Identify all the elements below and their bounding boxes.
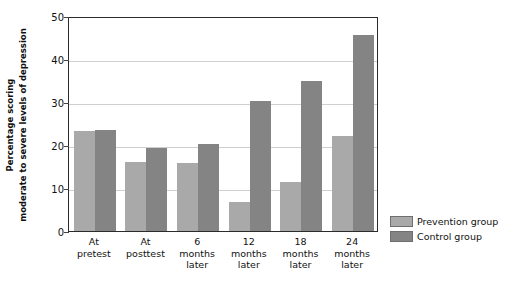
- x-axis-tick-label-line: months: [223, 248, 275, 260]
- x-axis-tick-label: 18monthslater: [275, 236, 327, 271]
- x-axis-tick-label-line: later: [171, 259, 223, 271]
- bar-prevention[interactable]: [280, 182, 301, 231]
- bar-group: [121, 18, 173, 231]
- bar-control[interactable]: [250, 101, 271, 231]
- y-axis-tick-label: 30: [40, 98, 64, 109]
- bar-prevention[interactable]: [229, 202, 250, 231]
- y-axis-tick-label: 40: [40, 55, 64, 66]
- x-axis-tick-label-line: 6: [171, 236, 223, 248]
- legend-item[interactable]: Control group: [390, 231, 512, 242]
- bar-prevention[interactable]: [332, 136, 353, 231]
- x-axis-tick-label-line: later: [275, 259, 327, 271]
- legend-item-label: Control group: [417, 231, 482, 242]
- x-axis-tick-label-line: months: [326, 248, 378, 260]
- bar-prevention[interactable]: [177, 163, 198, 231]
- bar-control[interactable]: [198, 144, 219, 231]
- bars-layer: [69, 18, 377, 231]
- y-axis-title: Percentage scoring moderate to severe le…: [0, 0, 34, 250]
- bar-prevention[interactable]: [74, 131, 95, 231]
- x-axis-tick-label-line: pretest: [68, 248, 120, 260]
- x-axis-tick-label-line: At: [68, 236, 120, 248]
- x-axis-tick-label: Atpretest: [68, 236, 120, 259]
- bar-control[interactable]: [353, 35, 374, 232]
- y-axis-tick-label: 50: [40, 12, 64, 23]
- x-axis-tick-label-line: later: [223, 259, 275, 271]
- y-axis-tick-label: 20: [40, 141, 64, 152]
- plot-area: [68, 17, 378, 232]
- y-axis-tick-mark: [64, 60, 69, 61]
- x-axis-tick-label-line: 24: [326, 236, 378, 248]
- bar-control[interactable]: [301, 81, 322, 232]
- x-axis-tick-label: 12monthslater: [223, 236, 275, 271]
- x-axis-tick-labels: AtpretestAtposttest6monthslater12monthsl…: [68, 236, 378, 298]
- legend: Prevention groupControl group: [390, 216, 512, 246]
- legend-swatch-icon: [390, 216, 413, 227]
- bar-group: [224, 18, 276, 231]
- x-axis-tick-label: Atposttest: [120, 236, 172, 259]
- y-axis-tick-mark: [64, 17, 69, 18]
- x-axis-tick-label-line: At: [120, 236, 172, 248]
- y-axis-tick-mark: [64, 189, 69, 190]
- x-axis-tick-label-line: months: [275, 248, 327, 260]
- legend-item[interactable]: Prevention group: [390, 216, 512, 227]
- bar-group: [327, 18, 379, 231]
- x-axis-tick-label-line: 18: [275, 236, 327, 248]
- bar-prevention[interactable]: [125, 162, 146, 231]
- bar-group: [69, 18, 121, 231]
- x-axis-tick-label: 6monthslater: [171, 236, 223, 271]
- y-axis-tick-mark: [64, 146, 69, 147]
- y-axis-title-line-2: moderate to severe levels of depression: [17, 28, 30, 221]
- x-axis-tick-label-line: posttest: [120, 248, 172, 260]
- y-axis-tick-labels: 01020304050: [38, 0, 64, 305]
- bar-chart: Percentage scoring moderate to severe le…: [0, 0, 515, 305]
- x-axis-tick-label-line: months: [171, 248, 223, 260]
- legend-swatch-icon: [390, 231, 413, 242]
- x-axis-tick-label-line: later: [326, 259, 378, 271]
- bar-control[interactable]: [146, 148, 167, 231]
- y-axis-title-line-1: Percentage scoring: [4, 28, 17, 221]
- legend-item-label: Prevention group: [417, 216, 498, 227]
- x-axis-tick-label: 24monthslater: [326, 236, 378, 271]
- x-axis-tick-label-line: 12: [223, 236, 275, 248]
- bar-group: [172, 18, 224, 231]
- bar-group: [276, 18, 328, 231]
- bar-control[interactable]: [95, 130, 116, 231]
- y-axis-tick-label: 0: [40, 227, 64, 238]
- y-axis-tick-mark: [64, 232, 69, 233]
- y-axis-tick-mark: [64, 103, 69, 104]
- y-axis-tick-label: 10: [40, 184, 64, 195]
